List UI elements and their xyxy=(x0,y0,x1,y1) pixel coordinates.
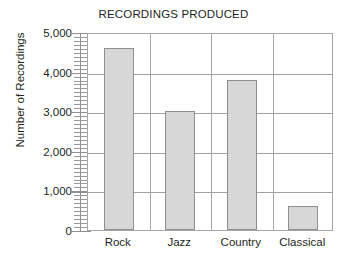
y-minor-tick xyxy=(74,164,87,165)
y-minor-tick xyxy=(74,41,87,42)
y-minor-tick xyxy=(74,77,87,78)
y-minor-tick xyxy=(74,120,87,121)
bar-classical xyxy=(288,206,318,230)
y-minor-tick xyxy=(74,223,87,224)
x-axis-tick-labels: RockJazzCountryClassical xyxy=(87,236,333,256)
y-minor-tick xyxy=(74,128,87,129)
y-minor-tick xyxy=(74,172,87,173)
y-minor-tick xyxy=(74,199,87,200)
y-minor-tick xyxy=(74,65,87,66)
category-divider xyxy=(211,34,212,230)
category-divider xyxy=(273,34,274,230)
y-minor-tick xyxy=(74,180,87,181)
y-minor-tick xyxy=(74,136,87,137)
y-minor-tick xyxy=(74,49,87,50)
bar-chart-figure: RECORDINGS PRODUCED Number of Recordings… xyxy=(0,0,347,264)
y-minor-tick xyxy=(74,211,87,212)
y-minor-tick xyxy=(74,144,87,145)
y-tick-label: 1,000 xyxy=(26,185,72,197)
bar-jazz xyxy=(165,111,195,230)
y-minor-tick xyxy=(74,140,87,141)
y-tick-label: 5,000 xyxy=(26,27,72,39)
y-minor-tick xyxy=(74,227,87,228)
y-minor-tick xyxy=(74,203,87,204)
x-tick-label-country: Country xyxy=(210,236,272,256)
y-minor-tick xyxy=(74,92,87,93)
y-minor-tick xyxy=(74,53,87,54)
y-minor-tick xyxy=(74,219,87,220)
y-minor-tick xyxy=(74,148,87,149)
plot-area xyxy=(87,33,333,231)
y-axis-tick-ruler xyxy=(74,33,87,231)
y-minor-tick xyxy=(74,132,87,133)
y-minor-tick xyxy=(74,207,87,208)
x-tick-label-jazz: Jazz xyxy=(149,236,211,256)
y-minor-tick xyxy=(74,168,87,169)
y-major-tick xyxy=(70,231,91,232)
x-tick-label-classical: Classical xyxy=(272,236,334,256)
y-tick-label: 4,000 xyxy=(26,67,72,79)
y-minor-tick xyxy=(74,183,87,184)
y-minor-tick xyxy=(74,96,87,97)
y-tick-label: 2,000 xyxy=(26,146,72,158)
bar-rock xyxy=(104,48,134,230)
y-minor-tick xyxy=(74,215,87,216)
y-minor-tick xyxy=(74,61,87,62)
y-minor-tick xyxy=(74,116,87,117)
chart-title: RECORDINGS PRODUCED xyxy=(0,8,347,20)
y-tick-label: 3,000 xyxy=(26,106,72,118)
y-minor-tick xyxy=(74,45,87,46)
category-divider xyxy=(150,34,151,230)
y-minor-tick xyxy=(74,100,87,101)
y-axis-tick-labels: 01,0002,0003,0004,0005,000 xyxy=(20,33,72,231)
y-minor-tick xyxy=(74,57,87,58)
y-minor-tick xyxy=(74,187,87,188)
y-minor-tick xyxy=(74,88,87,89)
y-minor-tick xyxy=(74,156,87,157)
y-tick-label: 0 xyxy=(26,225,72,237)
bar-country xyxy=(227,80,257,230)
y-minor-tick xyxy=(74,124,87,125)
y-minor-tick xyxy=(74,176,87,177)
y-minor-tick xyxy=(74,37,87,38)
x-tick-label-rock: Rock xyxy=(87,236,149,256)
y-minor-tick xyxy=(74,84,87,85)
y-minor-tick xyxy=(74,160,87,161)
y-minor-tick xyxy=(74,195,87,196)
y-minor-tick xyxy=(74,108,87,109)
y-minor-tick xyxy=(74,69,87,70)
y-minor-tick xyxy=(74,104,87,105)
y-minor-tick xyxy=(74,81,87,82)
